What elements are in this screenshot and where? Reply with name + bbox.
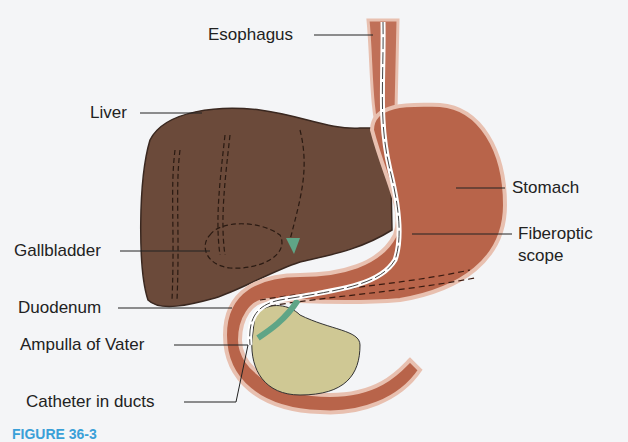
- figure-caption: FIGURE 36-3: [12, 426, 97, 442]
- label-fiberoptic-scope-line2: scope: [518, 246, 563, 265]
- label-ampulla-of-vater: Ampulla of Vater: [20, 335, 144, 354]
- label-catheter-in-ducts: Catheter in ducts: [26, 392, 155, 411]
- label-esophagus: Esophagus: [208, 25, 293, 44]
- label-gallbladder: Gallbladder: [14, 241, 101, 260]
- label-fiberoptic-scope-line1: Fiberoptic: [518, 224, 593, 243]
- label-stomach: Stomach: [512, 178, 579, 197]
- pancreas-shape: [252, 306, 360, 395]
- label-liver: Liver: [90, 103, 127, 122]
- label-duodenum: Duodenum: [18, 298, 101, 317]
